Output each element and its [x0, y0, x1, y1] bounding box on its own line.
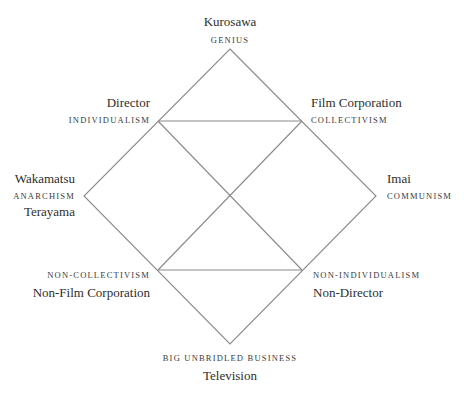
node-top-concept: GENIUS [211, 36, 249, 45]
node-left-concept: ANARCHISM [13, 192, 75, 201]
node-lower-right-name: Non-Director [313, 286, 383, 299]
node-left-name-above: Wakamatsu [15, 172, 75, 185]
node-bottom-name: Television [203, 369, 257, 382]
node-upper-right-concept: COLLECTIVISM [311, 116, 388, 125]
node-lower-left-concept: NON-COLLECTIVISM [47, 271, 150, 280]
node-right-concept: COMMUNISM [387, 192, 452, 201]
node-left-name-below: Terayama [24, 205, 75, 218]
node-upper-right-name: Film Corporation [311, 96, 402, 109]
node-upper-left-concept: INDIVIDUALISM [69, 116, 150, 125]
node-upper-left-name: Director [107, 96, 150, 109]
node-bottom-concept: BIG UNBRIDLED BUSINESS [163, 354, 298, 363]
node-lower-right-concept: NON-INDIVIDUALISM [313, 271, 420, 280]
node-right-name: Imai [387, 172, 411, 185]
node-top-name: Kurosawa [204, 15, 257, 28]
node-lower-left-name: Non-Film Corporation [33, 286, 150, 299]
